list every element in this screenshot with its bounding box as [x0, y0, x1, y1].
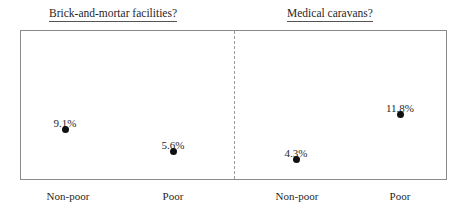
data-point-left-nonpoor	[62, 126, 69, 133]
panel-title-brick-and-mortar: Brick-and-mortar facilities?	[49, 7, 177, 22]
axis-label-left-poor: Poor	[163, 190, 184, 203]
data-point-right-nonpoor	[293, 156, 300, 163]
axis-label-left-nonpoor: Non-poor	[47, 190, 90, 203]
plot-area: 9.1% 5.6% 4.3% 11.8%	[20, 30, 447, 180]
panel-divider	[234, 31, 235, 179]
axis-label-right-poor: Poor	[390, 190, 411, 203]
axis-label-right-nonpoor: Non-poor	[276, 190, 319, 203]
chart-figure: Brick-and-mortar facilities? Medical car…	[0, 0, 465, 215]
data-point-right-poor	[397, 111, 404, 118]
data-point-left-poor	[170, 148, 177, 155]
panel-title-medical-caravans: Medical caravans?	[287, 7, 373, 22]
